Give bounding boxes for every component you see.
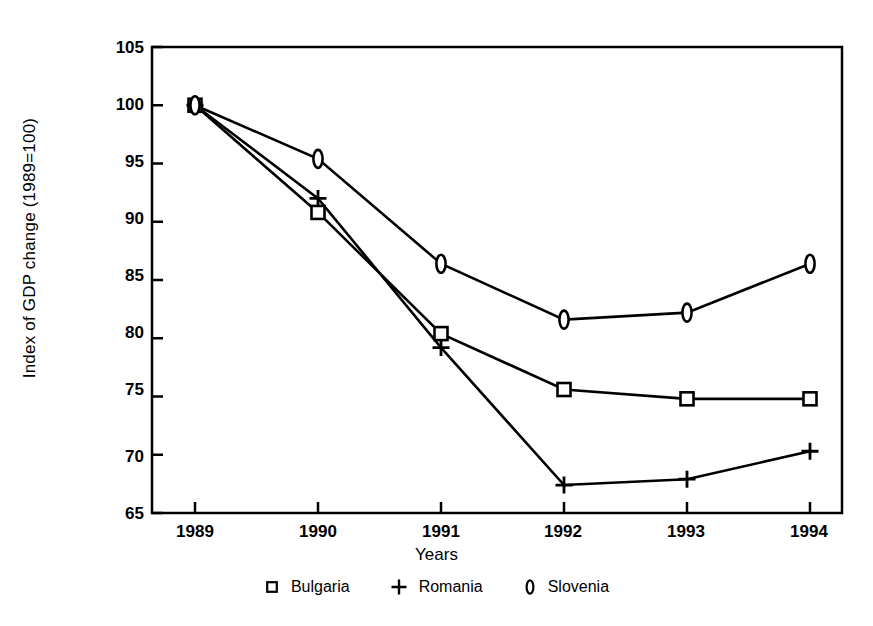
gdp-index-line-chart: Index of GDP change (1989=100) 105 100 9… (0, 0, 873, 626)
legend-item-romania: Romania (390, 578, 483, 596)
legend-label-slovenia: Slovenia (548, 579, 609, 595)
legend-label-bulgaria: Bulgaria (291, 579, 350, 595)
legend-label-romania: Romania (419, 579, 483, 595)
legend-item-bulgaria: Bulgaria (264, 579, 350, 595)
plus-marker-icon (390, 578, 408, 596)
y-axis-ticks (152, 47, 163, 513)
chart-legend: Bulgaria Romania Slovenia (0, 578, 873, 596)
series-markers (187, 96, 819, 493)
ellipse-marker-icon (523, 578, 537, 596)
x-axis-ticks (195, 502, 810, 513)
legend-item-slovenia: Slovenia (523, 578, 609, 596)
square-marker-icon (264, 579, 280, 595)
plot-area (0, 0, 873, 626)
series-lines (195, 105, 810, 485)
plot-frame (152, 47, 842, 513)
